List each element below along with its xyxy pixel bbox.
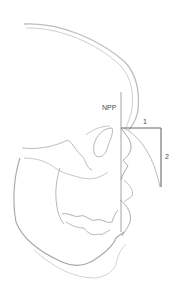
- nasal-profile: [121, 128, 131, 180]
- brow-ridge: [86, 126, 110, 135]
- orbit: [94, 128, 113, 157]
- npp-label: NPP: [102, 104, 116, 111]
- zygomatic-arch: [22, 140, 92, 170]
- measure-1-label: 1: [143, 118, 147, 125]
- upper-lip-profile: [124, 180, 133, 202]
- chin-profile: [120, 200, 131, 236]
- upper-teeth: [62, 210, 118, 222]
- lower-teeth: [66, 222, 110, 235]
- cranium-inner-outline: [26, 28, 133, 128]
- maxilla-outline: [24, 158, 108, 179]
- diagram-canvas: NPP 1 2: [0, 0, 182, 293]
- measure-2-label: 2: [165, 153, 169, 160]
- nose-curve: [124, 128, 160, 187]
- skull-illustration: [0, 0, 182, 293]
- mandible-lower-edge: [34, 244, 126, 278]
- temporal-line: [56, 168, 64, 224]
